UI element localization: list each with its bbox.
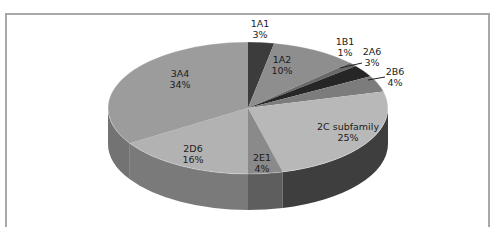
- label-2a6: 2A63%: [363, 46, 382, 68]
- label-3a4: 3A434%: [169, 68, 190, 90]
- pie-side-2e1: [248, 172, 283, 210]
- label-1a1: 1A13%: [251, 18, 270, 40]
- label-1b1: 1B11%: [336, 36, 355, 58]
- pie-slices: [108, 42, 388, 174]
- label-2b6: 2B64%: [386, 66, 405, 88]
- label-2e1: 2E14%: [253, 152, 271, 174]
- label-2d6: 2D616%: [182, 143, 203, 165]
- pie-chart: 1A13% 1A210% 1B11% 2A63% 2B64% 2C subfam…: [0, 0, 499, 227]
- label-1a2: 1A210%: [271, 54, 292, 76]
